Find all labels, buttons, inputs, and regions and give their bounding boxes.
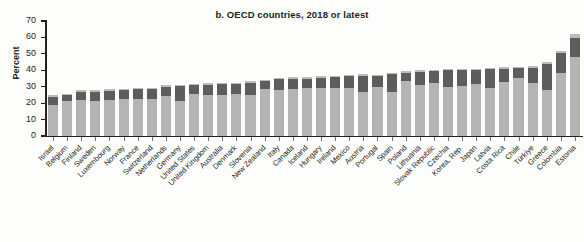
bar[interactable] — [231, 83, 241, 136]
bar[interactable] — [344, 75, 354, 136]
bar[interactable] — [358, 74, 368, 136]
plot-area — [46, 21, 582, 136]
x-tick-5 — [124, 137, 125, 141]
bar[interactable] — [485, 68, 495, 136]
x-label-text: Korea, Rep. — [430, 143, 465, 178]
x-tick-37 — [575, 137, 576, 141]
bar-segment-lower — [104, 100, 114, 136]
bar-segment-upper — [429, 71, 439, 83]
x-label-text: Greece — [526, 143, 550, 167]
bar[interactable] — [443, 69, 453, 136]
bar-segment-lower — [245, 95, 255, 136]
bar[interactable] — [457, 69, 467, 136]
x-tick-17 — [293, 137, 294, 141]
bar[interactable] — [90, 90, 100, 136]
bar-segment-lower — [48, 105, 58, 136]
bar[interactable] — [372, 75, 382, 136]
bar[interactable] — [119, 89, 129, 136]
bar-segment-lower — [76, 100, 86, 136]
bar[interactable] — [316, 76, 326, 136]
x-tick-31 — [490, 137, 491, 141]
bar-segment-upper — [471, 70, 481, 84]
x-label-text: Iceland — [286, 143, 309, 166]
bar[interactable] — [147, 88, 157, 136]
x-label-text: Belgium — [44, 143, 70, 169]
bar-segment-upper — [48, 97, 58, 105]
bar-segment-lower — [415, 85, 425, 136]
x-label-text: Latvia — [472, 143, 492, 163]
bar-segment-lower — [161, 96, 171, 136]
x-tick-16 — [279, 137, 280, 141]
bar[interactable] — [401, 71, 411, 136]
bar-segment-upper — [288, 79, 298, 90]
x-label-text: Germany — [154, 143, 182, 171]
bar[interactable] — [203, 83, 213, 136]
bar-segment-upper — [401, 73, 411, 81]
x-tick-18 — [307, 137, 308, 141]
x-label-text: Sweden — [72, 143, 98, 169]
x-tick-11 — [208, 137, 209, 141]
bar-segment-upper — [485, 69, 495, 87]
bar-segment-upper — [76, 92, 86, 100]
bar[interactable] — [570, 34, 580, 136]
bar[interactable] — [245, 81, 255, 136]
bar[interactable] — [415, 70, 425, 136]
x-label-text: Slovenia — [226, 143, 253, 170]
bar-segment-upper — [499, 69, 509, 82]
x-label-text: Hungary — [297, 143, 323, 169]
bar[interactable] — [48, 95, 58, 136]
x-tick-36 — [561, 137, 562, 141]
bar-segment-upper — [358, 76, 368, 92]
bar-segment-upper — [387, 74, 397, 91]
bar-segment-upper — [119, 90, 129, 99]
x-tick-24 — [392, 137, 393, 141]
bar[interactable] — [542, 62, 552, 136]
bar[interactable] — [513, 67, 523, 136]
bar[interactable] — [217, 83, 227, 136]
bar-segment-upper — [415, 72, 425, 85]
x-label-text: Netherlands — [134, 143, 169, 178]
bar[interactable] — [189, 84, 199, 136]
bar[interactable] — [499, 67, 509, 136]
x-label-text: Slovak Republic — [392, 143, 436, 187]
bar-segment-lower — [542, 90, 552, 136]
x-tick-3 — [95, 137, 96, 141]
x-tick-26 — [420, 137, 421, 141]
x-label-text: Switzerland — [121, 143, 155, 177]
bar-segment-upper — [513, 68, 523, 78]
x-tick-9 — [180, 137, 181, 141]
x-tick-7 — [152, 137, 153, 141]
bar-segment-upper — [330, 77, 340, 89]
x-tick-28 — [448, 137, 449, 141]
bar-segment-lower — [62, 101, 72, 136]
bar[interactable] — [133, 88, 143, 136]
bar[interactable] — [76, 90, 86, 136]
bar[interactable] — [260, 80, 270, 136]
bar[interactable] — [175, 85, 185, 136]
y-tick-label-10: 10 — [12, 115, 36, 124]
bar[interactable] — [471, 69, 481, 136]
x-label-text: Australia — [198, 143, 225, 170]
bar-segment-upper — [372, 76, 382, 87]
bar[interactable] — [161, 85, 171, 136]
bar[interactable] — [302, 77, 312, 136]
bar[interactable] — [528, 66, 538, 136]
bar-segment-lower — [499, 82, 509, 136]
x-tick-30 — [476, 137, 477, 141]
bar[interactable] — [104, 89, 114, 136]
x-label-text: Canada — [271, 143, 296, 168]
bar[interactable] — [556, 51, 566, 136]
bar-segment-lower — [316, 88, 326, 136]
bar-segment-upper — [217, 84, 227, 95]
x-label-text: Czechia — [425, 143, 451, 169]
bar[interactable] — [288, 77, 298, 136]
x-label-text: Poland — [385, 143, 408, 166]
bar-segment-upper — [147, 89, 157, 99]
x-tick-21 — [349, 137, 350, 141]
bar[interactable] — [429, 70, 439, 136]
bar[interactable] — [330, 76, 340, 136]
bar[interactable] — [274, 78, 284, 136]
bar[interactable] — [387, 73, 397, 136]
bar-segment-lower — [302, 88, 312, 136]
bar[interactable] — [62, 94, 72, 136]
